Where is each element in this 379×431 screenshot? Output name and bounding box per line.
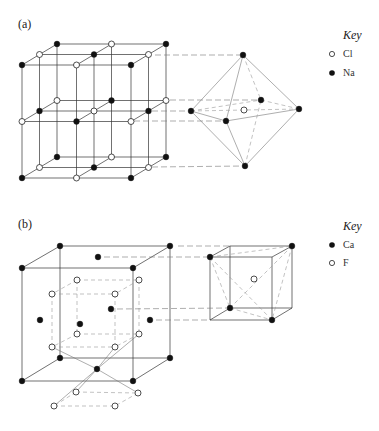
caf2-lattice-lines bbox=[22, 246, 292, 406]
cl-atom bbox=[241, 107, 247, 113]
unit-cube-edge bbox=[210, 308, 230, 320]
ca-atom bbox=[207, 254, 213, 260]
key-b-title: Key bbox=[342, 219, 362, 233]
cl-atom bbox=[109, 154, 115, 160]
ca-atom bbox=[57, 355, 63, 361]
f-cube-edge bbox=[76, 392, 138, 393]
cl-atom bbox=[163, 98, 169, 104]
ca-atom bbox=[95, 254, 101, 260]
ca-key-icon bbox=[329, 242, 335, 248]
f-atom bbox=[112, 291, 118, 297]
f-atom bbox=[73, 389, 79, 395]
octahedron-edge bbox=[226, 121, 245, 166]
na-atom bbox=[54, 154, 60, 160]
f-atom bbox=[51, 403, 57, 409]
na-atom bbox=[91, 165, 97, 171]
cl-atom bbox=[37, 165, 43, 171]
na-atom bbox=[54, 41, 60, 47]
ca-atom bbox=[94, 366, 100, 372]
panel-b-label: (b) bbox=[18, 217, 32, 231]
ca-atom bbox=[269, 317, 275, 323]
f-cube-edge bbox=[52, 280, 77, 294]
key-b-item-ca: Ca bbox=[343, 239, 355, 250]
f-key-icon bbox=[329, 260, 334, 265]
unit-cube-edge bbox=[272, 246, 292, 257]
projection-line bbox=[117, 308, 230, 309]
f-atom bbox=[74, 277, 80, 283]
na-atom bbox=[163, 41, 169, 47]
ca-atom bbox=[130, 378, 136, 384]
key-a-item-cl: Cl bbox=[343, 48, 353, 59]
ca-atom bbox=[37, 317, 43, 323]
cl-atom bbox=[109, 41, 115, 47]
f-atom bbox=[136, 277, 142, 283]
ca-atom bbox=[19, 378, 25, 384]
lattice-line bbox=[133, 358, 170, 381]
na-key-icon bbox=[329, 70, 335, 76]
tetrahedron-edge bbox=[210, 257, 272, 320]
f-cube-edge bbox=[115, 393, 138, 406]
key-b: Key Ca F bbox=[329, 219, 362, 268]
projection-line bbox=[152, 166, 245, 167]
na-atom bbox=[109, 98, 115, 104]
key-a: Key Cl Na bbox=[329, 28, 362, 78]
panel-a-label: (a) bbox=[18, 17, 31, 31]
octahedron-hidden-edge bbox=[243, 55, 261, 100]
f-atom bbox=[251, 276, 257, 282]
na-atom bbox=[19, 62, 25, 68]
na-atom bbox=[188, 108, 194, 114]
tetrahedron-edge bbox=[230, 246, 292, 308]
cl-atom bbox=[146, 52, 152, 58]
key-b-item-f: F bbox=[343, 257, 349, 268]
ca-atom bbox=[289, 243, 295, 249]
ca-atom bbox=[19, 265, 25, 271]
tetrahedron-edge bbox=[272, 246, 292, 320]
octahedron-hidden-edge bbox=[261, 100, 299, 109]
f-atom bbox=[49, 291, 55, 297]
tetrahedral-bond bbox=[54, 369, 97, 406]
cl-atom bbox=[128, 119, 134, 125]
na-atom bbox=[91, 52, 97, 58]
na-atom bbox=[242, 163, 248, 169]
lattice-line bbox=[22, 246, 60, 268]
crystal-structure-figure: (a) (b) Key Cl Na Key Ca F bbox=[0, 0, 379, 431]
cl-atom bbox=[74, 175, 80, 181]
ca-atom bbox=[57, 243, 63, 249]
f-cube-edge bbox=[115, 280, 139, 294]
octahedron-edge bbox=[226, 55, 243, 121]
octahedron-edge bbox=[226, 109, 299, 121]
octahedron-edge bbox=[191, 55, 243, 111]
key-a-item-na: Na bbox=[343, 67, 355, 78]
ca-atom bbox=[167, 243, 173, 249]
octahedron-edge bbox=[245, 109, 299, 166]
f-cube-edge bbox=[54, 392, 76, 406]
cl-atom bbox=[146, 165, 152, 171]
ca-atom bbox=[167, 355, 173, 361]
f-atom bbox=[112, 403, 118, 409]
na-atom bbox=[223, 118, 229, 124]
f-cube-edge bbox=[52, 334, 77, 347]
f-atom bbox=[112, 344, 118, 350]
f-atom bbox=[49, 344, 55, 350]
tetrahedral-bond bbox=[76, 369, 97, 392]
ca-atom bbox=[77, 321, 83, 327]
cl-atom bbox=[37, 52, 43, 58]
octahedron-hidden-edge bbox=[191, 100, 261, 111]
cl-key-icon bbox=[329, 51, 334, 56]
f-cube-edge bbox=[115, 334, 139, 347]
na-atom bbox=[146, 108, 152, 114]
ca-atom bbox=[147, 317, 153, 323]
cl-atom bbox=[91, 108, 97, 114]
octahedron-edge bbox=[243, 55, 299, 109]
na-atom bbox=[240, 52, 246, 58]
f-atom bbox=[74, 331, 80, 337]
na-atom bbox=[163, 154, 169, 160]
tetrahedron-edge bbox=[210, 246, 292, 257]
cl-atom bbox=[74, 62, 80, 68]
na-atom bbox=[128, 175, 134, 181]
cl-atom bbox=[19, 119, 25, 125]
na-atom bbox=[296, 106, 302, 112]
na-atom bbox=[37, 108, 43, 114]
na-atom bbox=[74, 119, 80, 125]
f-atom bbox=[135, 390, 141, 396]
